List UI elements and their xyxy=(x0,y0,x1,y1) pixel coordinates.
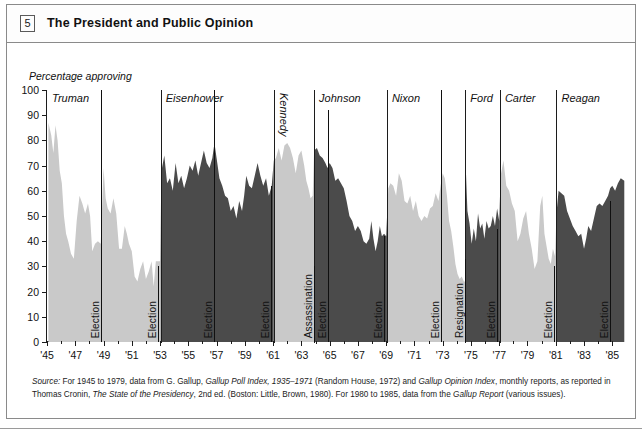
x-tick-label: '59 xyxy=(238,349,252,361)
source-text-1: For 1945 to 1979, data from G. Gallup, xyxy=(60,377,205,386)
x-tick xyxy=(202,341,203,344)
y-tick-label: 20 xyxy=(27,286,39,298)
event-marker-label: Election xyxy=(486,301,497,338)
x-tick xyxy=(513,341,514,344)
event-marker-line xyxy=(610,201,611,342)
x-tick-label: '79 xyxy=(521,349,535,361)
y-tick-label: 60 xyxy=(27,185,39,197)
x-tick xyxy=(89,341,90,344)
x-tick xyxy=(75,341,76,346)
x-tick-label: '69 xyxy=(379,349,393,361)
x-tick-label: '73 xyxy=(436,349,450,361)
event-marker-label: Election xyxy=(373,301,384,338)
event-marker-label: Election xyxy=(543,301,554,338)
x-tick xyxy=(174,341,175,344)
x-tick xyxy=(146,341,147,344)
source-note: Source: For 1945 to 1979, data from G. G… xyxy=(32,376,612,401)
x-tick xyxy=(471,341,472,346)
x-tick-label: '83 xyxy=(577,349,591,361)
x-tick-label: '81 xyxy=(549,349,563,361)
chart-canvas xyxy=(47,90,625,342)
y-tick-label: 50 xyxy=(27,210,39,222)
event-marker-label: Resignation xyxy=(454,283,465,338)
x-tick xyxy=(414,341,415,346)
president-panel-label: Nixon xyxy=(392,92,420,104)
source-text-2: (Random House, 1972) and xyxy=(313,377,419,386)
event-marker-line xyxy=(497,229,498,342)
y-tick-label: 10 xyxy=(27,311,39,323)
x-tick-label: '49 xyxy=(97,349,111,361)
event-marker-line xyxy=(271,186,272,342)
y-tick-label: 90 xyxy=(27,109,39,121)
x-tick-label: '45 xyxy=(40,349,54,361)
x-tick-label: '53 xyxy=(153,349,167,361)
y-tick-label: 80 xyxy=(27,134,39,146)
source-text-6: (various issues). xyxy=(504,390,566,399)
source-text-5: , 2nd ed. (Boston: Little, Brown, 1980).… xyxy=(194,390,453,399)
x-tick xyxy=(47,341,48,346)
event-marker-line xyxy=(101,90,102,342)
x-tick-label: '75 xyxy=(464,349,478,361)
x-tick xyxy=(542,341,543,344)
president-panel-divider xyxy=(274,90,275,343)
event-marker-label: Election xyxy=(90,301,101,338)
box-number: 5 xyxy=(20,15,35,32)
x-tick xyxy=(372,341,373,344)
x-tick-label: '51 xyxy=(125,349,139,361)
x-tick xyxy=(104,341,105,346)
president-panel-divider xyxy=(387,90,388,343)
president-panel-label: Ford xyxy=(470,92,493,104)
x-tick xyxy=(188,341,189,346)
x-tick xyxy=(287,341,288,344)
president-panel-divider xyxy=(161,90,162,343)
source-text-3: , monthly reports, as xyxy=(495,377,569,386)
y-tick xyxy=(42,266,47,267)
figure-page: 5 The President and Public Opinion Perce… xyxy=(0,0,642,435)
x-tick xyxy=(485,341,486,344)
y-tick xyxy=(42,166,47,167)
x-tick xyxy=(344,341,345,344)
x-tick-label: '63 xyxy=(295,349,309,361)
x-tick xyxy=(118,341,119,344)
x-tick xyxy=(570,341,571,344)
event-marker-label: Assassination xyxy=(303,274,314,338)
x-tick xyxy=(443,341,444,346)
source-italic-3: The State of the Presidency xyxy=(93,390,194,399)
y-tick-label: 40 xyxy=(27,235,39,247)
event-marker-label: Election xyxy=(203,301,214,338)
president-panel-label: Carter xyxy=(505,92,536,104)
y-tick-label: 70 xyxy=(27,160,39,172)
x-tick xyxy=(400,341,401,344)
x-tick xyxy=(301,341,302,346)
y-tick xyxy=(42,216,47,217)
y-tick xyxy=(42,241,47,242)
approval-area-chart: 0102030405060708090100'45'47'49'51'53'55… xyxy=(46,90,624,342)
x-tick xyxy=(612,341,613,346)
president-panel-divider xyxy=(556,90,557,343)
figure-header: 5 The President and Public Opinion xyxy=(6,4,636,42)
x-tick xyxy=(584,341,585,346)
x-tick xyxy=(429,341,430,344)
x-tick xyxy=(457,341,458,344)
x-tick xyxy=(598,341,599,344)
x-tick xyxy=(61,341,62,344)
president-panel-divider xyxy=(500,90,501,343)
y-tick xyxy=(42,292,47,293)
x-tick-label: '71 xyxy=(408,349,422,361)
x-tick-label: '55 xyxy=(181,349,195,361)
x-tick-label: '65 xyxy=(323,349,337,361)
x-tick xyxy=(316,341,317,344)
source-label: Source: xyxy=(32,377,60,386)
event-marker-label: Election xyxy=(260,301,271,338)
y-tick xyxy=(42,191,47,192)
president-panel-label: Johnson xyxy=(319,92,361,104)
y-tick-label: 0 xyxy=(33,336,39,348)
president-panel-label: Kennedy xyxy=(278,93,290,136)
x-tick-label: '47 xyxy=(68,349,82,361)
x-tick xyxy=(358,341,359,346)
y-axis-label: Percentage approving xyxy=(29,70,132,82)
y-tick xyxy=(42,115,47,116)
president-panel-label: Truman xyxy=(52,92,89,104)
y-tick-label: 30 xyxy=(27,260,39,272)
y-tick xyxy=(42,90,47,91)
